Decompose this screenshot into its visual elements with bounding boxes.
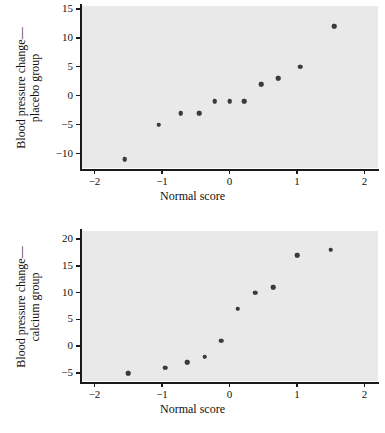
y-axis-tick — [76, 37, 80, 38]
y-axis-tick — [76, 265, 80, 266]
y-axis-tick — [76, 66, 80, 67]
data-point — [219, 339, 224, 344]
data-point — [271, 285, 276, 290]
x-axis-tick-label: 2 — [350, 176, 380, 187]
data-point — [185, 360, 190, 365]
data-point — [259, 82, 264, 87]
x-axis-tick — [161, 383, 162, 387]
data-point — [298, 64, 303, 69]
y-axis-label-line-1: Blood pressure change— — [14, 4, 28, 172]
data-point — [295, 253, 300, 258]
y-axis-label: Blood pressure change—calcium group — [14, 229, 42, 385]
x-axis-tick — [296, 170, 297, 174]
plot-area — [81, 6, 378, 168]
x-axis-tick — [94, 170, 95, 174]
data-point — [202, 355, 207, 360]
y-axis-tick — [76, 345, 80, 346]
x-axis-label: Normal score — [0, 190, 385, 203]
data-point — [123, 157, 128, 162]
x-axis-tick — [161, 170, 162, 174]
plot-area — [81, 231, 378, 381]
x-axis-tick-label: 1 — [282, 389, 312, 400]
y-axis-tick — [76, 372, 80, 373]
y-axis-tick — [76, 319, 80, 320]
figure-two-normal-probability-plots: −10−5051015−2−1012Normal scoreBlood pres… — [0, 0, 385, 433]
x-axis-tick-label: 0 — [215, 176, 245, 187]
x-axis-tick-label: 0 — [215, 389, 245, 400]
x-axis-tick — [296, 383, 297, 387]
x-axis-tick-label: −1 — [147, 389, 177, 400]
y-axis-label: Blood pressure change—placebo group — [14, 4, 42, 172]
x-axis-tick-label: 2 — [350, 389, 380, 400]
y-axis-label-line-1: Blood pressure change— — [14, 229, 28, 385]
data-point — [227, 99, 232, 104]
chart-calcium-group: −505101520−2−1012Normal scoreBlood press… — [0, 215, 385, 433]
data-point — [242, 99, 247, 104]
data-point — [276, 76, 281, 81]
y-axis-tick — [76, 153, 80, 154]
data-point — [179, 111, 184, 116]
data-point — [126, 371, 131, 376]
x-axis-tick-label: −2 — [80, 389, 110, 400]
data-point — [212, 99, 217, 104]
y-axis-label-line-2: placebo group — [28, 4, 42, 172]
x-axis-tick — [229, 170, 230, 174]
x-axis-tick — [364, 383, 365, 387]
chart-placebo-group: −10−5051015−2−1012Normal scoreBlood pres… — [0, 0, 385, 205]
data-point — [332, 24, 337, 29]
y-axis-tick — [76, 8, 80, 9]
y-axis-tick — [76, 238, 80, 239]
data-point — [235, 306, 240, 311]
y-axis-tick — [76, 95, 80, 96]
x-axis-tick — [229, 383, 230, 387]
data-point — [328, 247, 333, 252]
data-point — [197, 111, 202, 116]
x-axis-tick-label: −1 — [147, 176, 177, 187]
x-axis-tick-label: 1 — [282, 176, 312, 187]
y-axis-tick — [76, 292, 80, 293]
data-point — [253, 290, 258, 295]
x-axis-tick — [364, 170, 365, 174]
y-axis-line — [80, 4, 82, 170]
x-axis-tick-label: −2 — [80, 176, 110, 187]
y-axis-tick — [76, 124, 80, 125]
x-axis-label: Normal score — [0, 403, 385, 416]
x-axis-tick — [94, 383, 95, 387]
y-axis-label-line-2: calcium group — [28, 229, 42, 385]
data-point — [163, 365, 168, 370]
y-axis-line — [80, 229, 82, 383]
data-point — [156, 122, 161, 127]
